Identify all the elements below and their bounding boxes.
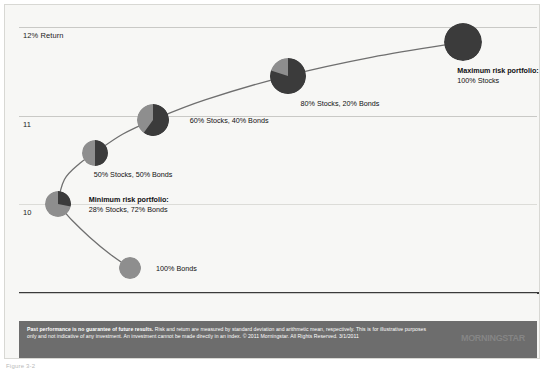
- portfolio-label-detail-4: 80% Stocks, 20% Bonds: [301, 99, 380, 109]
- portfolio-marker-2[interactable]: [82, 140, 108, 166]
- portfolio-label-3: 60% Stocks, 40% Bonds: [190, 116, 269, 126]
- footer-disclaimer-band: Past performance is no guarantee of futu…: [19, 321, 537, 358]
- chart-frame: 12% Return1110910% Risk11121314151617181…: [4, 4, 540, 359]
- portfolio-label-detail-3: 60% Stocks, 40% Bonds: [190, 116, 269, 126]
- plot-area: 12% Return1110910% Risk11121314151617181…: [5, 5, 541, 295]
- portfolio-label-detail-1: 28% Stocks, 72% Bonds: [89, 205, 169, 215]
- portfolio-marker-4[interactable]: [270, 58, 306, 94]
- y-tick-label-10: 10: [23, 208, 32, 217]
- portfolio-label-1: Minimum risk portfolio:28% Stocks, 72% B…: [89, 195, 169, 214]
- portfolio-label-title-1: Minimum risk portfolio:: [89, 195, 169, 205]
- portfolio-marker-5[interactable]: [444, 23, 482, 61]
- gridline-9: [19, 293, 537, 294]
- portfolio-label-4: 80% Stocks, 20% Bonds: [301, 99, 380, 109]
- morningstar-logo: MΟRNINGSTAR: [461, 333, 525, 343]
- footer-disclaimer-text: Past performance is no guarantee of futu…: [27, 326, 427, 341]
- portfolio-label-2: 50% Stocks, 50% Bonds: [94, 170, 173, 180]
- portfolio-marker-1[interactable]: [45, 191, 71, 217]
- portfolio-marker-3[interactable]: [137, 104, 169, 136]
- figure-caption: Figure 3-2: [6, 363, 35, 369]
- portfolio-label-detail-0: 100% Bonds: [156, 264, 197, 274]
- portfolio-label-5: Maximum risk portfolio:100% Stocks: [457, 66, 538, 85]
- portfolio-label-detail-2: 50% Stocks, 50% Bonds: [94, 170, 173, 180]
- portfolio-marker-0[interactable]: [119, 257, 141, 279]
- portfolio-label-title-5: Maximum risk portfolio:: [457, 66, 538, 76]
- figure-container: 12% Return1110910% Risk11121314151617181…: [0, 0, 547, 373]
- portfolio-label-detail-5: 100% Stocks: [457, 76, 538, 86]
- portfolio-label-0: 100% Bonds: [156, 264, 197, 274]
- footer-disclaimer-bold: Past performance is no guarantee of futu…: [27, 326, 153, 332]
- y-tick-label-11: 11: [23, 120, 31, 129]
- y-tick-label-12: 12% Return: [23, 31, 64, 40]
- gridline-11: [19, 116, 537, 117]
